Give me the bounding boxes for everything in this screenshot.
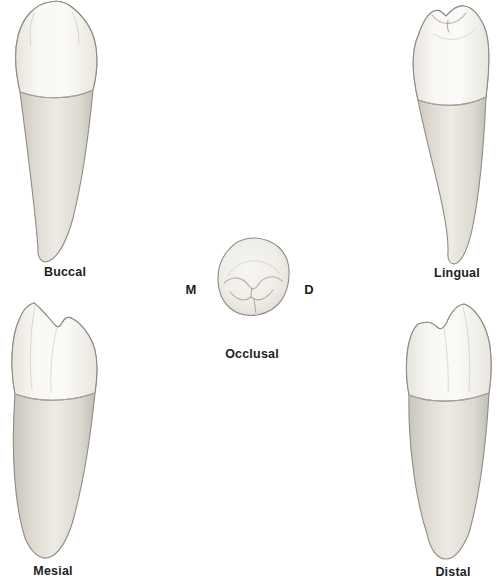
occlusal-view-label: Occlusal	[225, 347, 279, 361]
distal-view-illustration	[401, 297, 497, 565]
mesial-tooth-drawing	[5, 298, 100, 562]
buccal-tooth-drawing	[10, 0, 106, 268]
tooth-views-figure: Buccal Lingual	[0, 0, 498, 582]
mesial-view-label: Mesial	[33, 564, 72, 578]
distal-marker: D	[304, 282, 313, 297]
mesial-view-illustration	[5, 298, 100, 562]
lingual-view-illustration	[406, 2, 498, 272]
buccal-view-label: Buccal	[44, 265, 86, 279]
occlusal-view-illustration	[211, 236, 295, 322]
lingual-tooth-drawing	[406, 2, 498, 272]
buccal-view-illustration	[10, 0, 106, 268]
lingual-view-label: Lingual	[434, 266, 480, 280]
distal-view-label: Distal	[435, 565, 470, 579]
occlusal-tooth-drawing	[211, 236, 295, 322]
distal-tooth-drawing	[401, 297, 497, 565]
mesial-marker: M	[186, 282, 197, 297]
